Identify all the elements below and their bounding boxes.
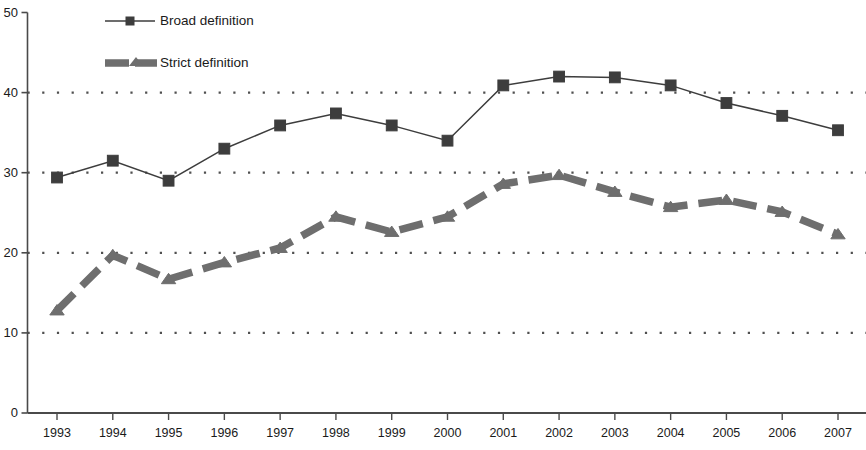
data-point-broad-2000 — [442, 135, 453, 146]
data-point-broad-1996 — [219, 143, 230, 154]
data-series — [50, 71, 845, 315]
y-tick-label-0: 0 — [0, 406, 18, 419]
data-point-broad-1995 — [163, 175, 174, 186]
x-tick-label-2007: 2007 — [808, 427, 866, 440]
y-tick-label-40: 40 — [0, 86, 18, 99]
legend-marker-square-icon — [126, 17, 135, 26]
x-tick-label-2003: 2003 — [585, 427, 645, 440]
x-tick-label-2001: 2001 — [473, 427, 533, 440]
series-line-broad — [57, 77, 838, 181]
x-tick-label-2000: 2000 — [418, 427, 478, 440]
x-tick-label-1999: 1999 — [362, 427, 422, 440]
y-tick-label-10: 10 — [0, 326, 18, 339]
data-point-broad-2002 — [554, 71, 565, 82]
data-point-broad-2004 — [665, 80, 676, 91]
x-tick-label-1996: 1996 — [194, 427, 254, 440]
data-point-broad-1998 — [331, 108, 342, 119]
data-point-broad-2003 — [609, 72, 620, 83]
x-tick-label-1998: 1998 — [306, 427, 366, 440]
data-point-broad-2006 — [777, 110, 788, 121]
series-line-strict — [57, 175, 838, 310]
x-tick-label-1997: 1997 — [250, 427, 310, 440]
data-point-broad-1993 — [52, 172, 63, 183]
data-point-broad-2005 — [721, 98, 732, 109]
x-tick-label-2004: 2004 — [641, 427, 701, 440]
x-tick-label-1995: 1995 — [139, 427, 199, 440]
legend-item-broad-definition[interactable]: Broad definition — [160, 14, 254, 28]
x-tick-label-1994: 1994 — [83, 427, 143, 440]
data-point-broad-2007 — [833, 125, 844, 136]
y-tick-label-30: 30 — [0, 166, 18, 179]
data-point-broad-1994 — [107, 155, 118, 166]
y-tick-label-20: 20 — [0, 246, 18, 259]
data-point-broad-1997 — [275, 120, 286, 131]
data-point-broad-2001 — [498, 80, 509, 91]
x-tick-label-2005: 2005 — [696, 427, 756, 440]
line-chart: 01020304050 1993199419951996199719981999… — [0, 0, 866, 450]
legend-swatches — [105, 17, 157, 67]
x-tick-label-1993: 1993 — [27, 427, 87, 440]
data-point-broad-1999 — [386, 120, 397, 131]
y-tick-label-50: 50 — [0, 6, 18, 19]
legend-item-strict-definition[interactable]: Strict definition — [160, 56, 249, 70]
x-tick-label-2006: 2006 — [752, 427, 812, 440]
chart-plot-area — [0, 0, 866, 450]
x-tick-label-2002: 2002 — [529, 427, 589, 440]
